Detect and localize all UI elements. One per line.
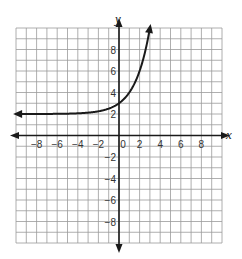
x-tick-label: 8 [199, 139, 205, 150]
y-tick-label: 6 [110, 66, 116, 77]
x-tick-label: 6 [178, 139, 184, 150]
x-tick-label: −6 [51, 139, 63, 150]
coordinate-plane: −8−6−4−202468−8−6−4−22468 x y [0, 0, 242, 259]
y-axis-label: y [113, 11, 121, 26]
y-tick-label: −6 [105, 195, 117, 206]
x-tick-label: 4 [157, 139, 163, 150]
x-tick-label: −4 [72, 139, 84, 150]
x-tick-label: −2 [93, 139, 105, 150]
y-tick-label: 8 [110, 45, 116, 56]
axes [10, 18, 230, 253]
x-axis-label: x [225, 127, 232, 142]
y-tick-label: 4 [110, 88, 116, 99]
function-curve [20, 31, 149, 114]
y-tick-label: 2 [110, 109, 116, 120]
x-tick-label: −8 [31, 139, 43, 150]
y-tick-label: −2 [105, 152, 117, 163]
x-tick-label: 2 [137, 139, 143, 150]
x-tick-label: 0 [120, 139, 126, 150]
y-tick-label: −8 [105, 217, 117, 228]
y-tick-label: −4 [105, 174, 117, 185]
